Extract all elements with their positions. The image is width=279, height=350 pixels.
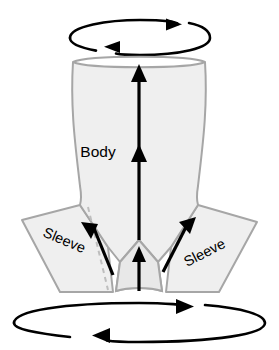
- rotation-top-left-arrowhead: [104, 41, 120, 53]
- rotation-top-upper-arc: [70, 20, 178, 38]
- garment-flow-diagram: Garment body and sleeve draw direction d…: [0, 0, 279, 350]
- rotation-bottom-left-arc: [14, 323, 70, 337]
- body-label: Body: [80, 143, 116, 160]
- rotation-top-right-arrowhead: [166, 19, 182, 31]
- rotation-bottom-upper-arc: [14, 303, 187, 323]
- rotation-top-left-arc: [70, 38, 96, 51]
- rotation-bottom-right-arrowhead: [176, 299, 194, 314]
- rotation-ellipse-icon-bottom: [14, 299, 265, 343]
- rotation-ellipse-icon-top: [70, 19, 210, 56]
- rotation-top-right-lower-arc: [116, 23, 210, 55]
- rotation-bottom-left-arrowhead: [92, 328, 110, 343]
- rotation-bottom-right-lower-arc: [107, 305, 265, 342]
- diagram-canvas: Garment body and sleeve draw direction d…: [0, 0, 279, 350]
- body-top-rim: [73, 57, 205, 62]
